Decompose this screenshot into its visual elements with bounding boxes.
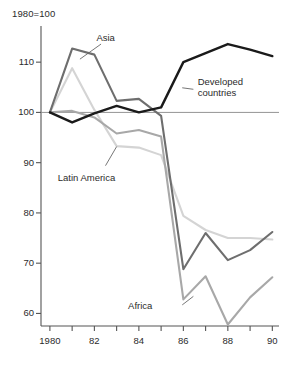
series-label-africa: Africa bbox=[128, 300, 152, 311]
x-axis-tick-label: 82 bbox=[74, 335, 114, 346]
y-axis-tick-label: 90 bbox=[8, 157, 34, 168]
y-axis-tick-label: 100 bbox=[8, 106, 34, 117]
y-axis-tick-label: 70 bbox=[8, 257, 34, 268]
chart-container: 1980=100 11010090807060 19808284868890 A… bbox=[0, 0, 288, 370]
series-line-africa bbox=[50, 111, 272, 325]
y-axis-tick-label: 110 bbox=[8, 56, 34, 67]
x-axis-tick-label: 90 bbox=[252, 335, 288, 346]
chart-plot-area bbox=[0, 0, 288, 370]
annotation-leader-line bbox=[182, 88, 193, 90]
series-label-latin-america: Latin America bbox=[57, 172, 115, 183]
series-label-asia: Asia bbox=[96, 32, 114, 43]
x-axis-tick-label: 84 bbox=[119, 335, 159, 346]
x-axis-tick-label: 88 bbox=[208, 335, 248, 346]
x-axis-tick-label: 1980 bbox=[30, 335, 70, 346]
annotation-leader-line bbox=[106, 147, 117, 166]
x-axis-tick-label: 86 bbox=[163, 335, 203, 346]
y-axis-tick-label: 80 bbox=[8, 207, 34, 218]
series-label-developed-countries: Developed countries bbox=[198, 76, 276, 98]
y-axis-tick-label: 60 bbox=[8, 307, 34, 318]
